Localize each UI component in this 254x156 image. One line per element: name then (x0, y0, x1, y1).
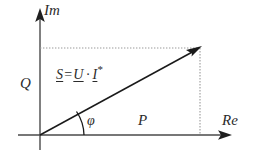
phasor-diagram: Im Re Q P φ S=U·I* (0, 0, 254, 156)
formula-symbol-u: U (73, 67, 83, 82)
formula-equals: = (63, 67, 73, 82)
apparent-power-formula: S=U·I* (56, 67, 103, 83)
phase-angle-label: φ (87, 114, 95, 128)
apparent-power-vector (40, 50, 196, 135)
formula-multiply-operator: · (84, 67, 93, 82)
real-axis-label: Re (222, 113, 238, 128)
reactive-power-label: Q (20, 76, 31, 91)
active-power-label: P (138, 113, 147, 128)
diagram-canvas (0, 0, 254, 156)
formula-conjugate-mark: * (97, 63, 103, 75)
imaginary-axis-label: Im (44, 3, 60, 18)
